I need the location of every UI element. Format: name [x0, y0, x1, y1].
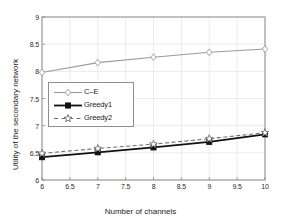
x-tick-label: 7.5	[121, 183, 130, 190]
legend-item[interactable]: Greedy2	[52, 111, 130, 124]
x-tick-label: 6	[40, 183, 44, 190]
y-tick-label: 7	[20, 122, 39, 129]
legend-item[interactable]: C–E	[52, 85, 130, 98]
y-tick-label: 6.5	[20, 149, 39, 156]
x-tick-label: 10	[261, 183, 268, 190]
x-tick-label: 9	[207, 183, 211, 190]
chart-figure: 66.577.588.59 66.577.588.599.510 Utility…	[0, 0, 281, 218]
x-tick-label: 7	[96, 183, 100, 190]
legend-item[interactable]: Greedy1	[52, 98, 130, 111]
y-tick-label: 7.5	[20, 95, 39, 102]
y-tick-label: 8	[20, 68, 39, 75]
x-tick-label: 8	[152, 183, 156, 190]
y-tick-label: 9	[20, 14, 39, 21]
y-tick-label: 6	[20, 177, 39, 184]
x-axis-title: Number of channels	[0, 207, 281, 216]
legend-label: Greedy2	[84, 113, 112, 122]
legend-label: Greedy1	[84, 100, 112, 109]
x-tick-label: 8.5	[177, 183, 186, 190]
legend-marker-diamond-icon	[52, 85, 84, 98]
legend-marker-star-icon	[52, 111, 84, 124]
legend: C–EGreedy1Greedy2	[48, 82, 134, 127]
legend-label: C–E	[84, 87, 98, 96]
y-axis-title: Utility of the secondary network	[11, 59, 20, 170]
legend-marker-square-icon	[52, 98, 84, 111]
y-tick-label: 8.5	[20, 41, 39, 48]
x-tick-label: 9.5	[233, 183, 242, 190]
x-tick-label: 6.5	[65, 183, 74, 190]
